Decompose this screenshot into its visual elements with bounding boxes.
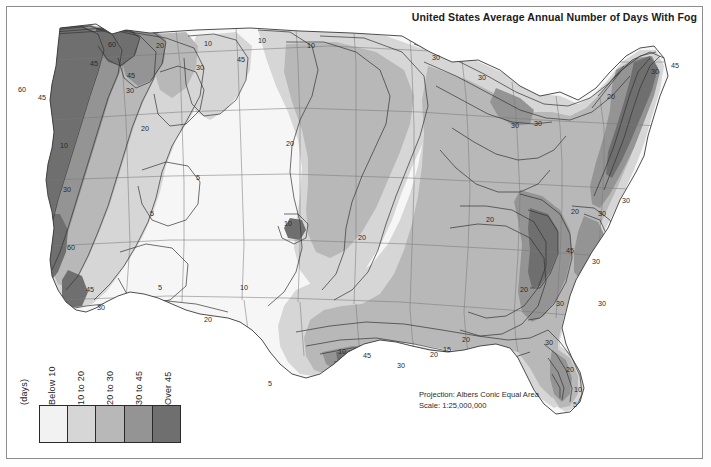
svg-text:45: 45 [90, 59, 98, 68]
svg-text:5: 5 [573, 400, 577, 409]
legend-units-label: (days) [19, 379, 29, 405]
legend-swatch-over-45 [153, 406, 180, 442]
legend-label-over-45: Over 45 [163, 372, 173, 405]
legend-swatch-30-to-45 [125, 406, 153, 442]
svg-text:10: 10 [240, 283, 248, 292]
map-title: United States Average Annual Number of D… [412, 11, 697, 23]
svg-text:45: 45 [237, 55, 245, 64]
svg-text:60: 60 [108, 40, 116, 49]
svg-text:10: 10 [307, 41, 315, 50]
legend-swatch-10-to-20 [68, 406, 96, 442]
projection-line: Projection: Albers Conic Equal Area [419, 390, 539, 401]
svg-text:30: 30 [592, 257, 600, 266]
svg-text:30: 30 [556, 299, 564, 308]
svg-text:20: 20 [141, 124, 149, 133]
svg-text:10: 10 [574, 385, 582, 394]
legend-swatch-20-to-30 [96, 406, 124, 442]
svg-text:5: 5 [268, 379, 272, 388]
svg-text:30: 30 [598, 299, 606, 308]
svg-text:30: 30 [63, 185, 71, 194]
svg-text:5: 5 [158, 283, 162, 292]
svg-text:10: 10 [60, 141, 68, 150]
svg-text:45: 45 [566, 246, 574, 255]
legend-label-below-10: Below 10 [47, 366, 57, 405]
legend-label-20-to-30: 20 to 30 [105, 371, 115, 405]
svg-text:60: 60 [18, 85, 26, 94]
svg-text:30: 30 [97, 303, 105, 312]
legend-swatch-strip [39, 405, 181, 443]
projection-note: Projection: Albers Conic Equal Area Scal… [419, 390, 539, 411]
svg-text:20: 20 [156, 41, 164, 50]
svg-text:30: 30 [397, 361, 405, 370]
svg-text:20: 20 [430, 350, 438, 359]
svg-text:30: 30 [622, 196, 630, 205]
svg-text:5: 5 [150, 209, 154, 218]
svg-text:30: 30 [545, 338, 553, 347]
legend-swatch-below-10 [40, 406, 68, 442]
svg-text:45: 45 [363, 351, 371, 360]
svg-text:45: 45 [127, 71, 135, 80]
svg-text:30: 30 [432, 53, 440, 62]
svg-text:45: 45 [671, 61, 679, 70]
svg-text:30: 30 [511, 121, 519, 130]
svg-text:20: 20 [520, 285, 528, 294]
svg-text:20: 20 [566, 365, 574, 374]
svg-text:30: 30 [598, 209, 606, 218]
scale-line: Scale: 1:25,000,000 [419, 401, 539, 412]
svg-text:10: 10 [284, 219, 292, 228]
svg-text:20: 20 [358, 233, 366, 242]
svg-text:30: 30 [478, 73, 486, 82]
svg-text:30: 30 [126, 86, 134, 95]
svg-text:20: 20 [486, 215, 494, 224]
svg-text:10: 10 [338, 347, 346, 356]
svg-text:20: 20 [607, 92, 615, 101]
svg-text:45: 45 [38, 93, 46, 102]
map-legend: (days) Below 10 10 to 20 20 to 30 30 to … [27, 346, 192, 451]
svg-text:5: 5 [196, 173, 200, 182]
legend-label-30-to-45: 30 to 45 [134, 371, 144, 405]
svg-text:20: 20 [571, 207, 579, 216]
svg-text:10: 10 [204, 39, 212, 48]
svg-text:20: 20 [286, 139, 294, 148]
svg-text:60: 60 [67, 243, 75, 252]
svg-text:30: 30 [534, 119, 542, 128]
svg-text:20: 20 [204, 315, 212, 324]
svg-text:30: 30 [196, 63, 204, 72]
svg-text:20: 20 [462, 335, 470, 344]
svg-text:15: 15 [443, 345, 451, 354]
svg-text:10: 10 [258, 36, 266, 45]
svg-text:45: 45 [86, 285, 94, 294]
svg-text:30: 30 [651, 67, 659, 76]
legend-label-10-to-20: 10 to 20 [76, 371, 86, 405]
